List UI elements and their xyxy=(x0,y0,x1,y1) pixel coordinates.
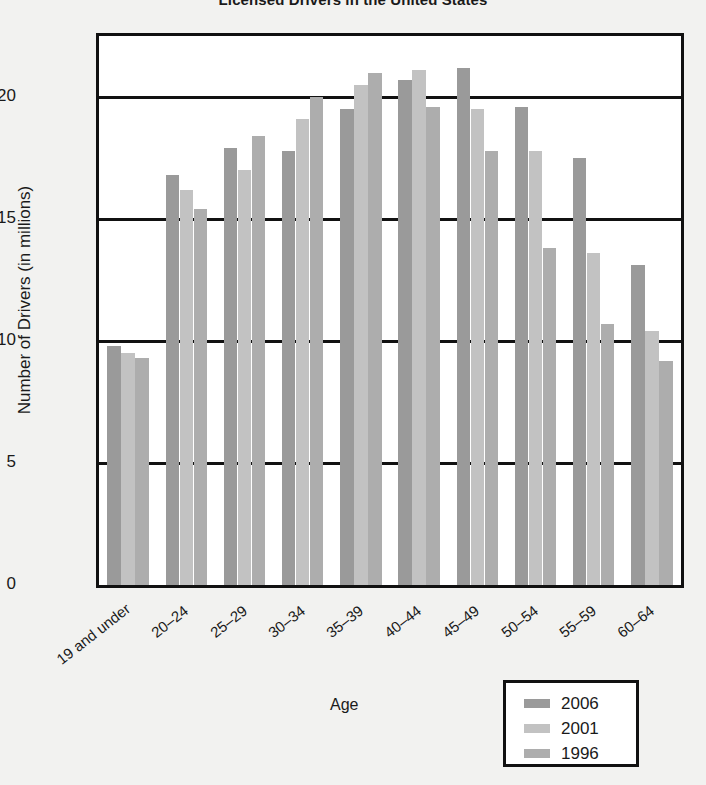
bar xyxy=(107,346,121,585)
legend-item: 1996 xyxy=(524,741,636,765)
bar xyxy=(166,175,180,585)
bar xyxy=(457,68,471,585)
legend-item: 2006 xyxy=(524,691,636,715)
bars-layer xyxy=(99,36,681,585)
bar xyxy=(471,109,485,585)
bar xyxy=(573,158,587,585)
legend-item: 2001 xyxy=(524,716,636,740)
bar xyxy=(310,97,324,585)
bar-group xyxy=(332,36,390,585)
y-tick-label: 15 xyxy=(0,208,16,228)
y-tick-label: 10 xyxy=(0,330,16,350)
bar xyxy=(543,248,557,585)
bar xyxy=(631,265,645,585)
bar-group xyxy=(390,36,448,585)
bar xyxy=(135,358,149,585)
legend-label: 2006 xyxy=(561,695,599,712)
legend-swatch-icon xyxy=(524,724,550,733)
bar xyxy=(194,209,208,585)
bar xyxy=(515,107,529,585)
bar-group xyxy=(157,36,215,585)
bar-group xyxy=(99,36,157,585)
bar xyxy=(368,73,382,585)
bar-group xyxy=(506,36,564,585)
y-tick-label: 20 xyxy=(0,86,16,106)
y-tick-label: 0 xyxy=(0,574,16,594)
bar-group xyxy=(565,36,623,585)
bar xyxy=(412,70,426,585)
y-tick-label: 5 xyxy=(0,452,16,472)
bar xyxy=(485,151,499,585)
bar xyxy=(645,331,659,585)
bar-group xyxy=(623,36,681,585)
bar xyxy=(398,80,412,585)
bar-group xyxy=(215,36,273,585)
bar xyxy=(601,324,615,585)
chart-legend: 200620011996 xyxy=(503,680,639,767)
legend-label: 2001 xyxy=(561,720,599,737)
x-axis-title: Age xyxy=(330,696,358,714)
bar xyxy=(238,170,252,585)
bar xyxy=(529,151,543,585)
bar xyxy=(659,361,673,585)
bar xyxy=(252,136,266,585)
bar xyxy=(282,151,296,585)
bar-group xyxy=(274,36,332,585)
y-axis-title: Number of Drivers (in millions) xyxy=(15,70,35,530)
bar xyxy=(587,253,601,585)
legend-swatch-icon xyxy=(524,749,550,758)
legend-swatch-icon xyxy=(524,699,550,708)
bar xyxy=(224,148,238,585)
bar xyxy=(340,109,354,585)
legend-label: 1996 xyxy=(561,745,599,762)
bar xyxy=(426,107,440,585)
bar xyxy=(354,85,368,585)
bar xyxy=(180,190,194,585)
bar xyxy=(296,119,310,585)
bar-group xyxy=(448,36,506,585)
bar xyxy=(121,353,135,585)
plot-area xyxy=(96,33,684,588)
chart-title: Licensed Drivers in the United States xyxy=(0,0,706,8)
